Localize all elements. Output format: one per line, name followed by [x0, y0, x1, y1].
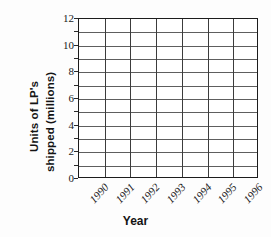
- vertical-gridline: [130, 19, 131, 177]
- y-axis-tick-label: 12: [52, 12, 74, 24]
- x-axis-tick-label: 1996: [233, 181, 265, 214]
- x-axis-tick-label: 1994: [182, 181, 214, 214]
- y-axis-title-line-1: Units of LP's: [28, 81, 40, 152]
- x-axis-tick-label: 1991: [104, 181, 136, 214]
- y-axis-tick-label: 10: [52, 39, 74, 51]
- y-axis-tick-mark: [74, 178, 78, 179]
- y-axis-tick-label: 4: [52, 119, 74, 131]
- x-axis-title: Year: [0, 214, 271, 228]
- vertical-gridline: [182, 19, 183, 177]
- vertical-gridline: [105, 19, 106, 177]
- y-axis-tick-label: 0: [52, 172, 74, 184]
- y-axis-tick-labels: 024681012: [52, 0, 74, 237]
- y-axis-tick-label: 8: [52, 65, 74, 77]
- vertical-gridline: [208, 19, 209, 177]
- x-axis-tick-label: 1993: [156, 181, 188, 214]
- x-axis-tick-label: 1990: [79, 181, 111, 214]
- chart-figure: Units of LP's shipped (millions) 0246810…: [0, 0, 271, 237]
- x-axis-tick-label: 1992: [130, 181, 162, 214]
- y-axis-tick-label: 6: [52, 92, 74, 104]
- plot-area: [78, 18, 258, 178]
- x-axis-tick-label: 1995: [207, 181, 239, 214]
- vertical-gridline: [156, 19, 157, 177]
- y-axis-tick-label: 2: [52, 145, 74, 157]
- vertical-gridline: [233, 19, 234, 177]
